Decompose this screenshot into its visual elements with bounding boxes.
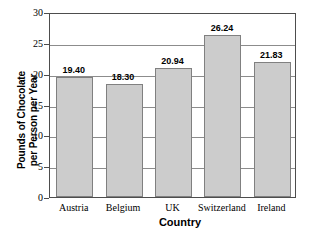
y-axis-tick-label: 20 bbox=[3, 69, 43, 80]
y-axis-tick-label: 5 bbox=[3, 161, 43, 172]
x-axis-label: Switzerland bbox=[198, 202, 246, 213]
x-axis-label: Belgium bbox=[106, 202, 140, 213]
y-axis-tick-label: 30 bbox=[3, 7, 43, 18]
bar-chart: Pounds of Chocolate per Person per Year … bbox=[0, 0, 311, 237]
x-axis-label: UK bbox=[165, 202, 179, 213]
bar bbox=[106, 84, 143, 197]
bar-value-label: 18.30 bbox=[112, 72, 135, 82]
x-axis-label: Austria bbox=[59, 202, 88, 213]
y-axis-tick-label: 15 bbox=[3, 100, 43, 111]
plot-area bbox=[49, 13, 296, 198]
bar-value-label: 21.83 bbox=[260, 50, 283, 60]
bar bbox=[254, 62, 291, 197]
x-axis-label: Ireland bbox=[257, 202, 285, 213]
bar-value-label: 20.94 bbox=[161, 56, 184, 66]
y-axis-tick bbox=[44, 198, 49, 199]
y-axis-title-line2: per Person per Year bbox=[28, 74, 41, 166]
bar bbox=[204, 35, 241, 197]
y-axis-title-line1: Pounds of Chocolate bbox=[16, 71, 29, 169]
x-axis-title: Country bbox=[0, 216, 311, 228]
y-axis-tick-label: 10 bbox=[3, 130, 43, 141]
bar bbox=[155, 68, 192, 197]
y-axis-title: Pounds of Chocolate per Person per Year bbox=[13, 25, 43, 215]
bar-value-label: 26.24 bbox=[211, 23, 234, 33]
y-axis-tick-label: 25 bbox=[3, 38, 43, 49]
gridline bbox=[50, 45, 295, 46]
bar bbox=[56, 77, 93, 197]
bar-value-label: 19.40 bbox=[62, 65, 85, 75]
y-axis-tick-label: 0 bbox=[3, 192, 43, 203]
